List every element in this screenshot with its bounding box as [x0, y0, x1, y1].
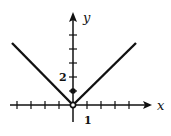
filled-point: [70, 88, 76, 94]
graph: y x 2 1: [0, 0, 171, 136]
y-tick-label: 2: [59, 71, 67, 84]
x-axis-label: x: [157, 98, 165, 113]
y-axis-label: y: [82, 10, 91, 25]
right-branch: [75, 43, 136, 103]
open-point: [70, 102, 75, 107]
x-tick-label: 1: [84, 114, 92, 127]
